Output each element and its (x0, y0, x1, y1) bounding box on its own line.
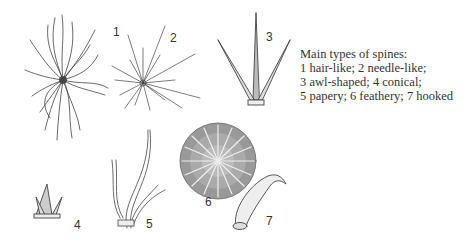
conical-spine-drawing (34, 184, 62, 218)
caption-line: 3 awl-shaped; 4 conical; (300, 75, 474, 89)
label-6: 6 (205, 196, 212, 208)
label-4: 4 (74, 219, 81, 231)
label-3: 3 (266, 31, 273, 43)
needle-like-spine-drawing (112, 26, 200, 110)
label-2: 2 (170, 32, 177, 44)
papery-spine-drawing (112, 130, 165, 228)
label-1: 1 (113, 26, 120, 38)
caption-line: 1 hair-like; 2 needle-like; (300, 61, 474, 75)
awl-shaped-spine-drawing (218, 13, 290, 105)
figure-caption: Main types of spines: 1 hair-like; 2 nee… (300, 47, 474, 103)
feathery-spine-drawing (180, 123, 256, 199)
caption-title: Main types of spines: (300, 47, 474, 61)
spine-types-figure: 1 2 3 4 5 6 7 Main types of spines: 1 ha… (0, 0, 474, 245)
label-5: 5 (146, 218, 153, 230)
hair-like-spine-drawing (25, 15, 108, 140)
caption-line: 5 papery; 6 feathery; 7 hooked (300, 89, 474, 103)
spine-illustrations (0, 0, 474, 245)
label-7: 7 (266, 215, 273, 227)
